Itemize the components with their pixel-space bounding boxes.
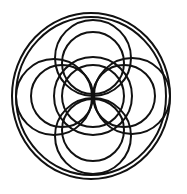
circle-pattern-diagram: [0, 0, 187, 194]
diagram-canvas: [0, 0, 187, 194]
